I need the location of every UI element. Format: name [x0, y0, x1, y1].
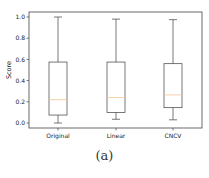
y-tick-label: 0.0	[15, 119, 25, 126]
iqr-box	[164, 64, 182, 108]
x-axis: OriginalLinearCNCV	[46, 128, 182, 140]
box-cncv	[164, 20, 182, 120]
iqr-box	[49, 62, 67, 115]
y-tick-label: 0.6	[15, 56, 25, 63]
box-original	[49, 17, 67, 123]
y-tick-label: 0.8	[15, 34, 25, 41]
y-axis: 0.00.20.40.60.81.0	[15, 13, 29, 126]
box-series	[49, 17, 182, 123]
y-axis-label: Score	[5, 61, 13, 79]
y-tick-label: 0.2	[15, 98, 25, 105]
iqr-box	[107, 62, 125, 112]
y-tick-label: 1.0	[15, 13, 25, 20]
x-tick-label: CNCV	[165, 132, 183, 139]
x-tick-label: Original	[46, 132, 70, 140]
plot-frame	[29, 12, 202, 128]
box-linear	[107, 19, 125, 119]
x-tick-label: Linear	[107, 132, 126, 139]
figure-caption: (a)	[0, 148, 209, 163]
y-tick-label: 0.4	[15, 77, 25, 84]
